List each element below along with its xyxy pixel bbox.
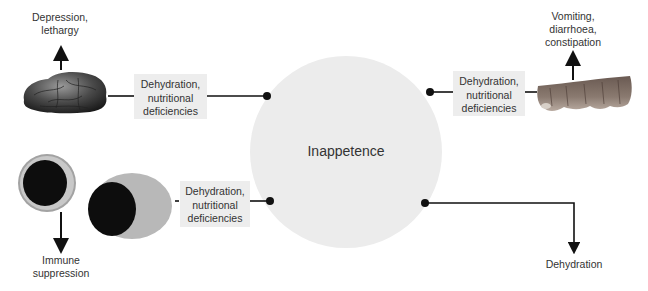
- box-line: Dehydration,: [183, 185, 247, 199]
- box-line: nutritional: [137, 92, 204, 106]
- box-line: Dehydration,: [456, 75, 522, 89]
- box-line: deficiencies: [137, 105, 204, 119]
- box-line: nutritional: [456, 89, 522, 103]
- intestine-cause-box: Dehydration, nutritional deficiencies: [453, 71, 525, 116]
- box-line: Dehydration,: [137, 78, 204, 92]
- brain-effect-label: Depression, lethargy: [10, 11, 110, 37]
- immune-cells-icon: [18, 154, 172, 239]
- label-line: constipation: [523, 36, 623, 49]
- box-line: nutritional: [183, 199, 247, 213]
- label-line: Vomiting,: [523, 10, 623, 23]
- brain-icon: [24, 72, 107, 113]
- label-line: diarrhoea,: [523, 23, 623, 36]
- intestine-effect-label: Vomiting, diarrhoea, constipation: [523, 10, 623, 49]
- connector-dot: [266, 197, 274, 205]
- direct-effect-label: Dehydration: [524, 258, 624, 271]
- intestine-icon: [537, 76, 631, 111]
- label-line: suppression: [11, 267, 111, 280]
- cells-cause-box: Dehydration, nutritional deficiencies: [180, 181, 250, 227]
- label-line: Dehydration: [524, 258, 624, 271]
- box-line: deficiencies: [183, 212, 247, 226]
- arrow-down-dehydration: [425, 203, 574, 248]
- label-line: Immune: [11, 254, 111, 267]
- brain-cause-box: Dehydration, nutritional deficiencies: [134, 74, 207, 119]
- label-line: Depression,: [10, 11, 110, 24]
- cells-effect-label: Immune suppression: [11, 254, 111, 280]
- label-line: lethargy: [10, 24, 110, 37]
- connector-dot: [263, 92, 271, 100]
- box-line: deficiencies: [456, 102, 522, 116]
